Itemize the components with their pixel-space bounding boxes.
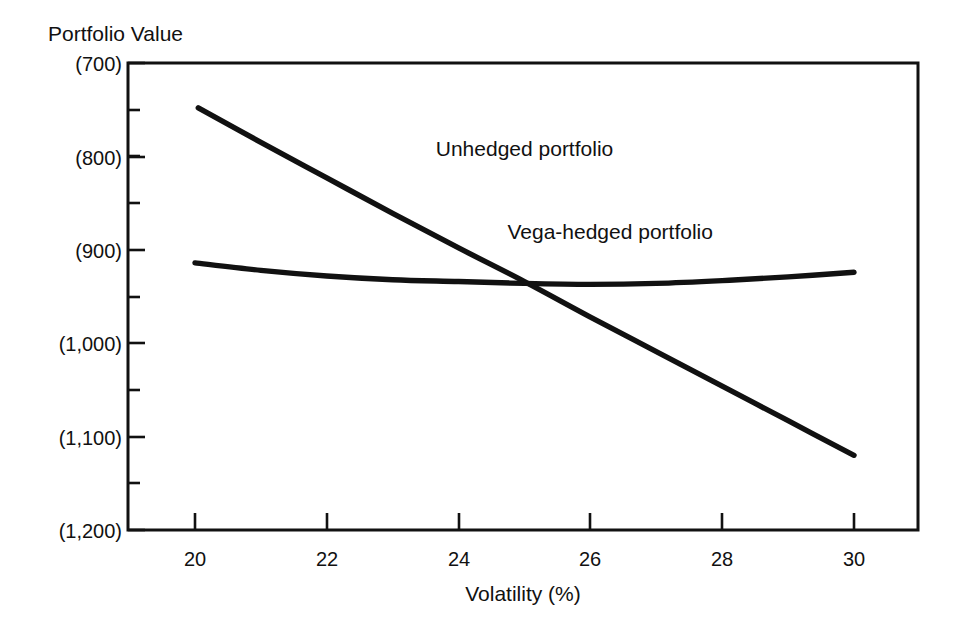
series-label-vega-hedged-portfolio: Vega-hedged portfolio	[507, 220, 713, 243]
x-tick-label-22: 22	[316, 548, 338, 570]
series-line-vega-hedged-portfolio	[195, 263, 854, 284]
x-tick-label-24: 24	[448, 548, 470, 570]
y-tick-label-1100: (1,100)	[59, 427, 122, 449]
y-axis-tick-labels: (700) (800) (900) (1,000) (1,100) (1,200…	[59, 53, 122, 542]
x-axis-title: Volatility (%)	[465, 582, 581, 605]
y-tick-label-1200: (1,200)	[59, 520, 122, 542]
portfolio-value-vs-volatility-chart: Portfolio Value (700) (800) (900) (	[0, 0, 965, 626]
y-tick-label-900: (900)	[75, 240, 122, 262]
y-tick-label-800: (800)	[75, 147, 122, 169]
x-tick-label-20: 20	[184, 548, 206, 570]
x-tick-label-30: 30	[843, 548, 865, 570]
x-axis-ticks	[195, 513, 854, 530]
chart-page: Portfolio Value (700) (800) (900) (	[0, 0, 965, 626]
y-tick-label-700: (700)	[75, 53, 122, 75]
y-axis-ticks	[128, 63, 145, 530]
series-label-unhedged-portfolio: Unhedged portfolio	[436, 137, 613, 160]
x-tick-label-26: 26	[579, 548, 601, 570]
x-tick-label-28: 28	[711, 548, 733, 570]
x-axis-tick-labels: 20 22 24 26 28 30	[184, 548, 865, 570]
y-axis-title: Portfolio Value	[48, 22, 183, 45]
y-tick-label-1000: (1,000)	[59, 333, 122, 355]
